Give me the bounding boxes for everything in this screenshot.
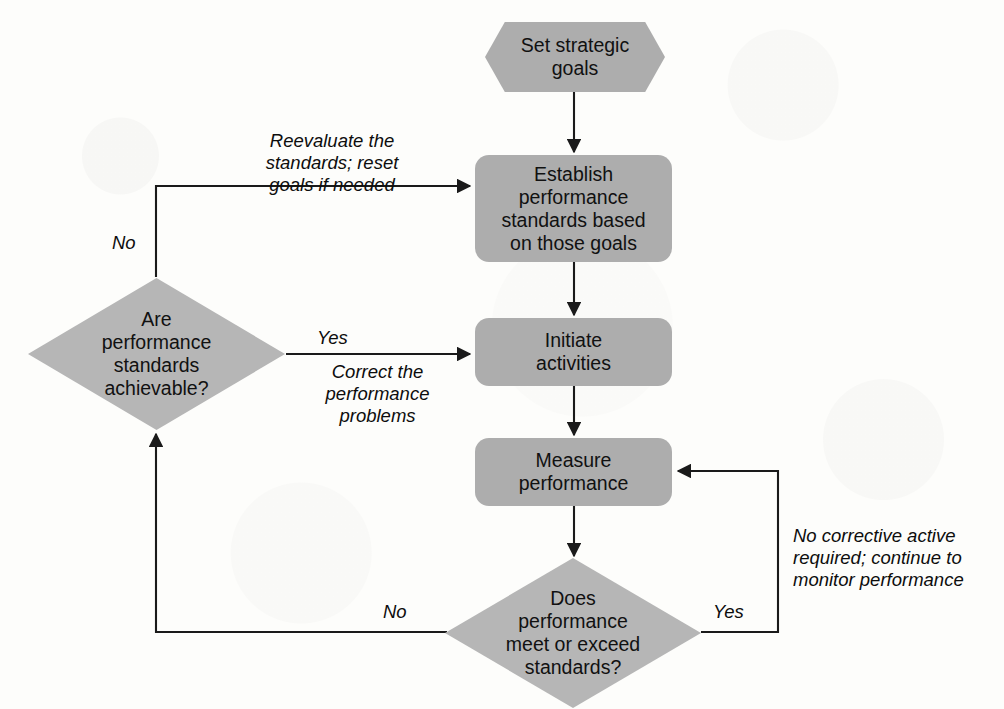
node-measure-performance[interactable]: Measure performance bbox=[475, 438, 672, 506]
node-initiate-activities-label: Initiate activities bbox=[475, 329, 672, 375]
edge-label-reevaluate: Reevaluate the standards; reset goals if… bbox=[232, 130, 432, 197]
edge-label-no-corrective-action: No corrective active required; continue … bbox=[793, 525, 998, 592]
node-establish-performance-standards[interactable]: Establish performance standards based on… bbox=[475, 155, 672, 262]
edge-label-no-achievable: No bbox=[112, 232, 136, 254]
edge-reevaluate-to-standards bbox=[156, 186, 470, 277]
node-set-strategic-goals[interactable]: Set strategic goals bbox=[485, 22, 665, 92]
node-initiate-activities[interactable]: Initiate activities bbox=[475, 318, 672, 386]
node-establish-performance-standards-label: Establish performance standards based on… bbox=[475, 163, 672, 255]
decision-does-performance-meet-standards[interactable]: Does performance meet or exceed standard… bbox=[445, 558, 701, 708]
flowchart-canvas: Set strategic goals Establish performanc… bbox=[0, 0, 1004, 709]
decision-are-standards-achievable[interactable]: Are performance standards achievable? bbox=[28, 278, 285, 430]
node-measure-performance-label: Measure performance bbox=[475, 449, 672, 495]
edge-label-yes-achievable: Yes bbox=[317, 327, 348, 349]
edge-label-correct-problems: Correct the performance problems bbox=[300, 361, 455, 428]
edge-label-yes-meets: Yes bbox=[713, 601, 744, 623]
decision-does-performance-meet-standards-label: Does performance meet or exceed standard… bbox=[445, 587, 701, 679]
node-set-strategic-goals-label: Set strategic goals bbox=[485, 34, 665, 80]
decision-are-standards-achievable-label: Are performance standards achievable? bbox=[28, 308, 285, 400]
edge-label-no-meets: No bbox=[383, 601, 407, 623]
